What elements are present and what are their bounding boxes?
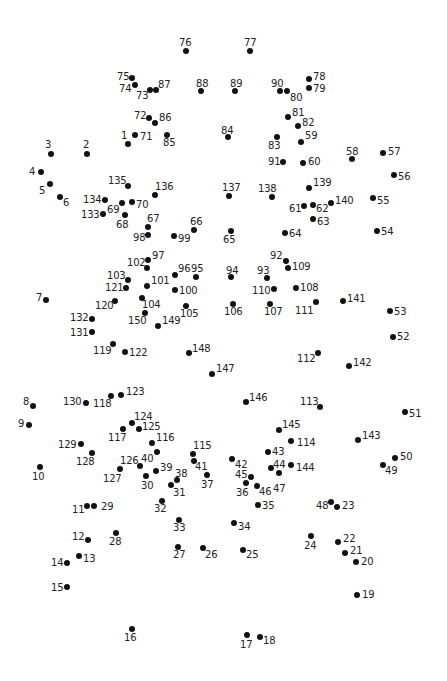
dot-label: 104 <box>142 300 161 310</box>
dot-label: 144 <box>296 463 315 473</box>
dot-label: 113 <box>300 397 319 407</box>
dot-label: 71 <box>140 132 152 142</box>
dot-label: 73 <box>136 91 148 101</box>
dot-78 <box>306 76 312 82</box>
dot-10 <box>37 464 43 470</box>
dot-91 <box>280 159 286 165</box>
dot-label: 44 <box>273 460 285 470</box>
dot-54 <box>374 228 380 234</box>
dot-138 <box>269 194 275 200</box>
dot-label: 36 <box>236 488 248 498</box>
connect-the-dots-puzzle: 1234567891011121314151617181920212223242… <box>0 0 447 681</box>
dot-68 <box>122 212 128 218</box>
dot-20 <box>353 559 359 565</box>
dot-133 <box>100 211 106 217</box>
dot-label: 18 <box>263 636 275 646</box>
dot-57 <box>380 150 386 156</box>
dot-label: 98 <box>133 233 145 243</box>
dot-109 <box>285 265 291 271</box>
dot-label: 74 <box>119 84 131 94</box>
dot-label: 103 <box>107 271 126 281</box>
dot-label: 53 <box>394 307 406 317</box>
dot-79 <box>306 85 312 91</box>
dot-131 <box>89 329 95 335</box>
dot-label: 51 <box>409 409 421 419</box>
dot-98 <box>145 232 151 238</box>
dot-label: 95 <box>191 264 203 274</box>
dot-43 <box>265 449 271 455</box>
dot-label: 2 <box>83 140 89 150</box>
dot-label: 34 <box>238 522 250 532</box>
dot-112 <box>315 350 321 356</box>
dot-34 <box>231 520 237 526</box>
dot-134 <box>102 197 108 203</box>
dot-66 <box>191 227 197 233</box>
dot-label: 94 <box>226 266 238 276</box>
dot-label: 45 <box>235 470 247 480</box>
dot-121 <box>123 285 129 291</box>
dot-label: 88 <box>196 79 208 89</box>
dot-label: 146 <box>249 393 268 403</box>
dot-48 <box>328 499 334 505</box>
dot-label: 37 <box>201 480 213 490</box>
dot-37 <box>204 472 210 478</box>
dot-label: 40 <box>141 454 153 464</box>
dot-label: 79 <box>313 84 325 94</box>
dot-144 <box>288 462 294 468</box>
dot-137 <box>226 193 232 199</box>
dot-label: 17 <box>240 640 252 650</box>
dot-label: 138 <box>258 184 277 194</box>
dot-69 <box>119 200 125 206</box>
dot-101 <box>144 283 150 289</box>
dot-99 <box>171 233 177 239</box>
dot-label: 119 <box>93 346 112 356</box>
dot-61 <box>301 203 307 209</box>
dot-label: 133 <box>81 210 100 220</box>
dot-label: 13 <box>83 554 95 564</box>
dot-label: 83 <box>268 141 280 151</box>
dot-64 <box>282 230 288 236</box>
dot-label: 127 <box>103 474 122 484</box>
dot-8 <box>30 403 36 409</box>
dot-149 <box>155 323 161 329</box>
dot-30 <box>143 473 149 479</box>
dot-label: 10 <box>32 472 44 482</box>
dot-40 <box>154 449 160 455</box>
dot-label: 130 <box>63 397 82 407</box>
dot-71 <box>132 132 138 138</box>
dot-47 <box>276 470 282 476</box>
dot-label: 102 <box>127 258 146 268</box>
dot-45 <box>248 474 254 480</box>
dot-label: 27 <box>173 550 185 560</box>
dot-21 <box>342 550 348 556</box>
dot-label: 76 <box>179 38 191 48</box>
dot-22 <box>335 539 341 545</box>
dot-label: 21 <box>350 546 362 556</box>
dot-label: 137 <box>222 183 241 193</box>
dot-116 <box>149 440 155 446</box>
dot-label: 136 <box>155 182 174 192</box>
dot-5 <box>47 181 53 187</box>
dot-50 <box>392 455 398 461</box>
dot-82 <box>295 123 301 129</box>
dot-label: 48 <box>316 501 328 511</box>
dot-label: 35 <box>262 501 274 511</box>
dot-label: 19 <box>362 590 374 600</box>
dot-129 <box>78 441 84 447</box>
dot-label: 106 <box>224 307 243 317</box>
dot-label: 143 <box>362 431 381 441</box>
dot-label: 23 <box>342 501 354 511</box>
dot-12 <box>85 537 91 543</box>
dot-label: 85 <box>163 138 175 148</box>
dot-7 <box>43 297 49 303</box>
dot-2 <box>84 151 90 157</box>
dot-111 <box>313 299 319 305</box>
dot-97 <box>145 257 151 263</box>
dot-label: 123 <box>126 387 145 397</box>
dot-label: 129 <box>58 440 77 450</box>
dot-label: 84 <box>221 126 233 136</box>
dot-label: 132 <box>70 313 89 323</box>
dot-label: 107 <box>264 307 283 317</box>
dot-label: 60 <box>308 157 320 167</box>
dot-143 <box>355 437 361 443</box>
